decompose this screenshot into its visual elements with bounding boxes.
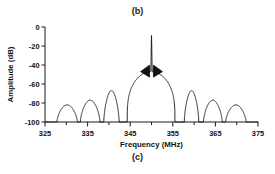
x-tick-label: 335 [81, 129, 93, 138]
response-curve-group [45, 36, 258, 122]
y-tick-label: -40 [29, 61, 40, 70]
x-axis-title: Frequency (MHz) [120, 140, 183, 149]
x-tick-label: 375 [252, 129, 264, 138]
y-tick-label: -80 [29, 99, 40, 108]
y-tick-label: -60 [29, 80, 40, 89]
y-axis-title: Amplitude (dB) [6, 46, 15, 102]
figure-panel: (b) 0-20-40-60-80-100325335345355365375F… [0, 0, 275, 174]
y-tick-label: -20 [29, 42, 40, 51]
x-tick-label: 345 [124, 129, 136, 138]
spectrum-plot: 0-20-40-60-80-100325335345355365375Frequ… [0, 18, 275, 150]
x-tick-label: 365 [209, 129, 221, 138]
shoulder-ripples-left [140, 65, 149, 77]
y-tick-label: -100 [25, 118, 40, 127]
y-tick-label: 0 [35, 23, 39, 32]
response-trace [45, 36, 258, 122]
x-tick-label: 355 [167, 129, 179, 138]
plot-svg: 0-20-40-60-80-100325335345355365375Frequ… [0, 18, 275, 150]
figure-caption-top: (b) [0, 6, 275, 16]
x-tick-label: 325 [39, 129, 51, 138]
figure-caption-bottom: (c) [0, 152, 275, 162]
